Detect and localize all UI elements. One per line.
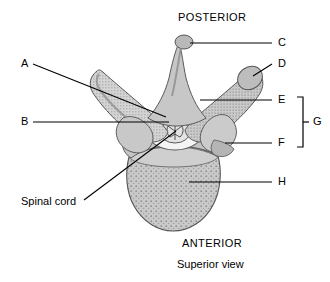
- label-e: E: [278, 94, 285, 105]
- label-d: D: [278, 58, 286, 69]
- vertebra-diagram-figure: POSTERIOR ANTERIOR Superior view A B C D…: [0, 0, 330, 282]
- label-a: A: [21, 58, 28, 69]
- label-g: G: [313, 116, 322, 127]
- bone-shapes: [90, 35, 267, 231]
- figure-caption: Superior view: [177, 259, 244, 270]
- orientation-label-posterior: POSTERIOR: [178, 12, 246, 23]
- label-h: H: [278, 176, 286, 187]
- bracket-g: [297, 97, 309, 147]
- orientation-label-anterior: ANTERIOR: [182, 238, 242, 249]
- label-b: B: [21, 116, 28, 127]
- label-c: C: [278, 37, 286, 48]
- spinous-process-tip: [175, 35, 193, 49]
- label-f: F: [278, 137, 285, 148]
- label-spinal-cord: Spinal cord: [21, 196, 76, 207]
